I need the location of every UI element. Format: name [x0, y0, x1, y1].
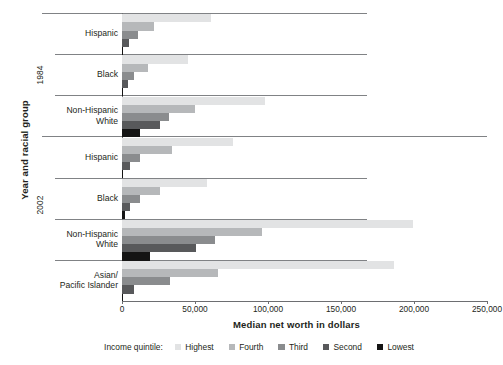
- bar-second: [122, 203, 130, 211]
- legend-item[interactable]: Fourth: [229, 342, 264, 352]
- legend-label: Fourth: [239, 342, 263, 352]
- legend-item[interactable]: Second: [323, 342, 362, 352]
- legend-label: Lowest: [387, 342, 414, 352]
- bar-third: [122, 154, 140, 162]
- category-label: Hispanic: [42, 152, 118, 163]
- bar-lowest: [122, 129, 140, 137]
- x-axis-tick-label: 100,000: [253, 304, 283, 314]
- category-label-line: Non-Hispanic: [42, 105, 118, 116]
- legend-label: Highest: [185, 342, 213, 352]
- category-label-line: Hispanic: [42, 28, 118, 39]
- legend-swatch: [229, 344, 236, 351]
- x-axis-tick-label: 50,000: [182, 304, 207, 314]
- bar-third: [122, 72, 134, 80]
- category-label: Asian/Pacific Islander: [42, 270, 118, 291]
- bar-fourth: [122, 105, 195, 113]
- bar-highest: [122, 220, 413, 228]
- legend-item[interactable]: Highest: [175, 342, 214, 352]
- category-label-line: White: [42, 239, 118, 250]
- bar-highest: [122, 138, 233, 146]
- bar-third: [122, 277, 170, 285]
- x-axis-title: Median net worth in dollars: [0, 319, 503, 330]
- legend-swatch: [377, 344, 384, 351]
- category-label-line: Hispanic: [42, 152, 118, 163]
- bar-second: [122, 244, 196, 252]
- legend: Income quintile: HighestFourthThirdSecon…: [0, 342, 503, 352]
- bar-highest: [122, 97, 265, 105]
- bar-second: [122, 80, 128, 88]
- category-label-line: Pacific Islander: [42, 280, 118, 291]
- legend-label: Third: [289, 342, 308, 352]
- category-label: Black: [42, 193, 118, 204]
- category-label-line: Asian/: [42, 270, 118, 281]
- bar-third: [122, 195, 140, 203]
- bar-third: [122, 113, 169, 121]
- bar-fourth: [122, 22, 154, 30]
- legend-label: Second: [333, 342, 361, 352]
- category-label-line: Non-Hispanic: [42, 229, 118, 240]
- legend-swatch: [278, 344, 285, 351]
- category-label-line: Black: [42, 69, 118, 80]
- chart-container: Year and racial group 1984 2002 Hispanic…: [0, 0, 503, 365]
- category-label: Black: [42, 69, 118, 80]
- legend-swatch: [175, 344, 182, 351]
- category-label-line: White: [42, 116, 118, 127]
- category-label: Non-HispanicWhite: [42, 105, 118, 126]
- bar-third: [122, 31, 138, 39]
- bar-highest: [122, 55, 188, 63]
- legend-title: Income quintile:: [104, 342, 163, 352]
- bar-second: [122, 39, 129, 47]
- category-label: Hispanic: [42, 28, 118, 39]
- category-label-line: Black: [42, 193, 118, 204]
- bar-fourth: [122, 146, 172, 154]
- bar-lowest: [122, 47, 123, 55]
- bar-lowest: [122, 88, 123, 96]
- legend-swatch: [323, 344, 330, 351]
- bar-third: [122, 236, 215, 244]
- plot-area: [122, 13, 487, 301]
- bar-fourth: [122, 228, 262, 236]
- x-axis-tick-label: 250,000: [472, 304, 502, 314]
- legend-items: HighestFourthThirdSecondLowest: [175, 342, 429, 352]
- legend-item[interactable]: Third: [278, 342, 308, 352]
- bar-second: [122, 285, 134, 293]
- bar-fourth: [122, 187, 160, 195]
- bar-fourth: [122, 64, 148, 72]
- bar-second: [122, 121, 160, 129]
- bar-lowest: [122, 170, 123, 178]
- x-axis-tick-label: 200,000: [399, 304, 429, 314]
- legend-item[interactable]: Lowest: [377, 342, 414, 352]
- x-axis-line: [122, 301, 487, 302]
- bar-fourth: [122, 269, 218, 277]
- bar-lowest: [122, 211, 125, 219]
- bar-highest: [122, 14, 211, 22]
- x-axis-tick-label: 150,000: [326, 304, 356, 314]
- bar-second: [122, 162, 130, 170]
- bar-highest: [122, 261, 394, 269]
- category-label: Non-HispanicWhite: [42, 229, 118, 250]
- x-axis-tick-label: 0: [120, 304, 125, 314]
- bar-highest: [122, 179, 207, 187]
- y-axis-title: Year and racial group: [19, 0, 35, 300]
- bar-lowest: [122, 252, 150, 260]
